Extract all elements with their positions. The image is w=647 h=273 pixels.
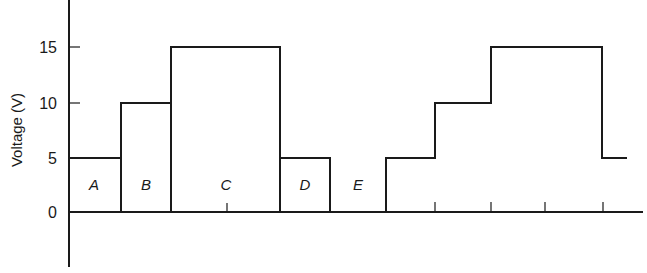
y-tick-label-15: 15 xyxy=(39,39,57,56)
y-tick-label-0: 0 xyxy=(48,204,57,221)
y-axis-title: Voltage (V) xyxy=(8,93,25,167)
y-tick-label-10: 10 xyxy=(39,95,57,112)
segment-label-e: E xyxy=(353,176,364,193)
segment-label-a: A xyxy=(88,176,99,193)
waveform-right xyxy=(386,47,627,212)
segment-label-b: B xyxy=(141,176,151,193)
segment-label-d: D xyxy=(300,176,311,193)
waveform-left xyxy=(69,47,330,212)
voltage-step-diagram: 0 5 10 15 Voltage (V) A B C D E xyxy=(0,0,647,273)
y-tick-label-5: 5 xyxy=(48,150,57,167)
segment-label-c: C xyxy=(221,176,232,193)
